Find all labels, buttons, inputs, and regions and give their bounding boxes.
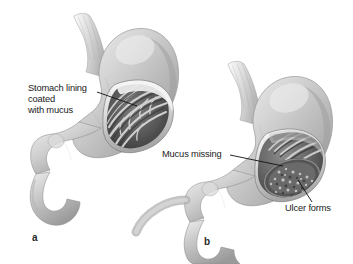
illustration-canvas <box>0 0 353 264</box>
pyloric-sphincter-b <box>202 182 218 196</box>
mucus-missing-label: Mucus missing <box>162 149 222 160</box>
panel-letter-b: b <box>204 236 210 247</box>
ulcer-forms-label: Ulcer forms <box>285 203 331 214</box>
stomach-lining-label-line3: with mucus <box>28 105 73 116</box>
duodenum-b <box>184 220 240 264</box>
stomach-lining-label: Stomach lining <box>28 83 87 94</box>
stomach-ulcer-figure: Stomach lining coated with mucus Mucus m… <box>0 0 353 264</box>
stomach-lining-label-line2: coated <box>28 94 55 105</box>
panel-a-stomach <box>30 13 178 225</box>
panel-letter-a: a <box>32 232 38 243</box>
duodenum-a <box>30 172 80 225</box>
pyloric-sphincter-a <box>48 134 64 148</box>
